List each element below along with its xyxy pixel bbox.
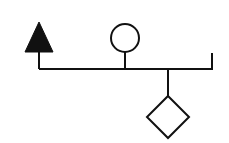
open-diamond-member bbox=[147, 69, 189, 138]
open-diamond-icon bbox=[147, 96, 189, 138]
open-circle-member bbox=[111, 24, 139, 69]
open-circle-icon bbox=[111, 24, 139, 52]
pedigree-diagram bbox=[0, 0, 229, 143]
filled-triangle-icon bbox=[25, 22, 53, 52]
filled-triangle-member bbox=[25, 22, 53, 69]
